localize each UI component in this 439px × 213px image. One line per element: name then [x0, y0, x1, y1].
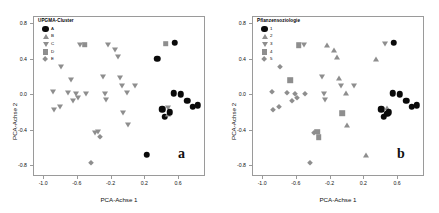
data-point: [340, 110, 346, 116]
x-tick-mark: [262, 176, 263, 179]
legend-item-1: 1: [260, 26, 300, 33]
triangle-down-icon: [338, 84, 344, 89]
data-point: [331, 47, 337, 52]
data-point: [103, 97, 109, 102]
triangle-down-icon: [57, 104, 63, 109]
y-axis-title-b: PCA-Achse 2: [230, 103, 237, 140]
legend-item-4: 4: [260, 49, 300, 56]
data-point: [75, 95, 81, 100]
filled-circle-icon: [261, 26, 268, 33]
legend-item-A: A: [41, 26, 74, 33]
data-point: [89, 161, 93, 165]
data-point: [269, 90, 273, 94]
triangle-down-icon: [120, 111, 126, 116]
filled-circle-icon: [154, 56, 161, 63]
x-tick-label: -1.0: [250, 180, 274, 186]
data-point: [285, 91, 289, 95]
data-point: [391, 40, 398, 47]
triangle-down-icon: [58, 64, 64, 69]
x-tick-label: 0.2: [132, 180, 156, 186]
data-point: [58, 64, 64, 69]
triangle-down-icon: [75, 95, 81, 100]
data-point: [117, 76, 123, 81]
data-point: [278, 65, 282, 69]
diamond-icon: [42, 57, 48, 63]
data-point: [57, 104, 63, 109]
x-tick-label: 0.6: [166, 180, 190, 186]
triangle-down-icon: [382, 41, 388, 46]
y-tick-label: 0.8: [5, 20, 27, 26]
square-icon: [43, 49, 49, 55]
y-tick-mark: [30, 130, 33, 131]
triangle-down-icon: [100, 75, 106, 80]
data-point: [287, 77, 293, 83]
legend-item-label: 3: [270, 42, 272, 46]
legend-b: Pflanzensoziologie 12345: [257, 19, 300, 63]
legend-symbol: [41, 49, 50, 55]
data-point: [144, 152, 151, 159]
data-point: [301, 42, 307, 47]
square-icon: [340, 110, 346, 116]
data-point: [163, 41, 169, 47]
legend-a: UPGMA-Cluster ABCDE: [38, 19, 74, 63]
y-tick-mark: [249, 59, 252, 60]
data-point: [167, 109, 174, 116]
diamond-icon: [302, 91, 308, 97]
legend-item-D: D: [41, 49, 74, 56]
data-point: [112, 47, 118, 52]
data-point: [324, 43, 330, 48]
data-point: [102, 92, 108, 97]
pca-figure: UPGMA-Cluster ABCDE -1.0-0.6-0.20.20.60.…: [0, 0, 439, 213]
triangle-up-icon: [343, 90, 349, 95]
legend-item-label: 2: [270, 34, 272, 38]
square-icon: [82, 42, 88, 48]
filled-circle-icon: [194, 102, 201, 109]
filled-circle-icon: [391, 40, 398, 47]
triangle-down-icon: [68, 78, 74, 83]
data-point: [50, 89, 56, 94]
diamond-icon: [307, 160, 313, 166]
x-axis-title-a: PCA-Achse 1: [33, 196, 205, 203]
legend-item-label: 5: [270, 57, 272, 61]
square-icon: [163, 41, 169, 47]
y-tick-label: 0.8: [224, 20, 246, 26]
legend-symbol: [260, 42, 269, 47]
data-point: [321, 92, 327, 97]
triangle-down-icon: [321, 92, 327, 97]
data-point: [154, 56, 161, 63]
filled-circle-icon: [167, 109, 174, 116]
y-tick-mark: [30, 165, 33, 166]
panel-b: Pflanzensoziologie 12345 -1.0-0.6-0.20.2…: [219, 0, 438, 213]
y-tick-mark: [249, 165, 252, 166]
diamond-icon: [261, 57, 267, 63]
data-point: [115, 55, 121, 60]
panel-letter-b: b: [397, 146, 405, 162]
triangle-down-icon: [124, 90, 130, 95]
x-tick-label: -0.6: [65, 180, 89, 186]
triangle-up-icon: [373, 56, 379, 61]
data-point: [172, 40, 179, 47]
x-tick-mark: [77, 176, 78, 179]
filled-circle-icon: [172, 40, 179, 47]
x-tick-label: -0.2: [99, 180, 123, 186]
triangle-down-icon: [105, 43, 111, 48]
data-point: [344, 123, 350, 128]
triangle-up-icon: [344, 123, 350, 128]
data-point: [413, 102, 420, 109]
triangle-down-icon: [112, 47, 118, 52]
data-point: [65, 91, 71, 96]
legend-item-5: 5: [260, 56, 300, 63]
diamond-icon: [277, 64, 283, 70]
diamond-icon: [284, 90, 290, 96]
y-tick-mark: [249, 23, 252, 24]
x-tick-label: 0.2: [351, 180, 375, 186]
data-point: [124, 90, 130, 95]
data-point: [295, 96, 299, 100]
data-point: [271, 108, 275, 112]
y-tick-mark: [30, 23, 33, 24]
legend-item-label: B: [51, 34, 54, 38]
triangle-down-icon: [117, 76, 123, 81]
x-tick-mark: [111, 176, 112, 179]
triangle-down-icon: [119, 84, 125, 89]
filled-circle-icon: [171, 90, 178, 97]
